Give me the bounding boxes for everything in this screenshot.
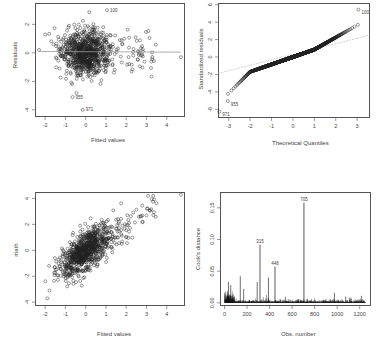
svg-text:1: 1 — [104, 311, 107, 317]
svg-text:-1: -1 — [63, 311, 68, 317]
cooks-distance-panel: 0200400600800100012000.000.050.100.15705… — [191, 178, 382, 356]
svg-text:3: 3 — [145, 122, 148, 128]
svg-text:1000: 1000 — [331, 311, 343, 317]
x-axis-label: Theoretical Quantiles — [272, 140, 329, 146]
svg-text:0: 0 — [223, 311, 226, 317]
svg-text:955: 955 — [76, 95, 84, 100]
svg-text:-4: -4 — [207, 89, 213, 94]
svg-text:-4: -4 — [24, 107, 30, 112]
svg-text:2: 2 — [207, 38, 213, 41]
svg-text:0: 0 — [207, 55, 213, 58]
svg-text:955: 955 — [231, 102, 239, 107]
svg-text:448: 448 — [271, 261, 279, 266]
svg-text:2: 2 — [334, 123, 337, 129]
y-axis-label: Residuals — [12, 35, 18, 75]
svg-text:-2: -2 — [43, 122, 48, 128]
cooks-bars — [225, 203, 366, 303]
svg-text:200: 200 — [242, 311, 251, 317]
svg-text:0.05: 0.05 — [209, 266, 215, 277]
svg-text:-4: -4 — [24, 300, 30, 305]
svg-text:1200: 1200 — [354, 311, 366, 317]
y-axis-label: Cook's distance — [195, 224, 201, 274]
svg-text:0: 0 — [291, 123, 294, 129]
svg-text:2: 2 — [24, 223, 30, 226]
svg-text:0: 0 — [24, 249, 30, 252]
x-axis-label: Obs. number — [281, 331, 316, 337]
svg-text:3: 3 — [356, 123, 359, 129]
svg-text:3: 3 — [145, 311, 148, 317]
svg-text:4: 4 — [24, 197, 30, 200]
svg-text:100: 100 — [361, 10, 369, 15]
svg-text:800: 800 — [310, 311, 319, 317]
svg-text:600: 600 — [288, 311, 297, 317]
svg-text:-2: -2 — [24, 274, 30, 279]
svg-text:100: 100 — [110, 8, 118, 13]
svg-text:6: 6 — [207, 3, 213, 6]
svg-text:971: 971 — [86, 107, 94, 112]
svg-text:400: 400 — [265, 311, 274, 317]
residuals-scatter-plot: -2-10123420-2-4100955971 — [0, 0, 191, 178]
axes: -3-2-101236420-2-4-6 — [207, 3, 359, 129]
svg-text:0.00: 0.00 — [209, 297, 215, 308]
svg-text:4: 4 — [165, 311, 168, 317]
svg-text:-2: -2 — [248, 123, 253, 129]
svg-text:0: 0 — [84, 311, 87, 317]
svg-text:2: 2 — [24, 23, 30, 26]
svg-text:0.15: 0.15 — [209, 202, 215, 213]
svg-text:0: 0 — [84, 122, 87, 128]
qq-scatter-plot: -3-2-101236420-2-4-6100955971 — [191, 0, 382, 178]
cooks-distance-bars: 0200400600800100012000.000.050.100.15705… — [191, 178, 382, 356]
x-axis-label: Fitted values — [97, 331, 131, 337]
svg-text:2: 2 — [125, 122, 128, 128]
svg-text:705: 705 — [300, 197, 308, 202]
svg-text:1: 1 — [313, 123, 316, 129]
normal-qq-panel: -3-2-101236420-2-4-6100955971 Theoretica… — [191, 0, 382, 178]
math-scatter-plot: -2-101234420-2-4 — [0, 178, 191, 356]
svg-text:-1: -1 — [269, 123, 274, 129]
svg-text:1: 1 — [104, 122, 107, 128]
y-axis-label: math — [13, 240, 19, 260]
svg-text:4: 4 — [207, 21, 213, 24]
svg-text:-1: -1 — [63, 122, 68, 128]
svg-text:4: 4 — [165, 122, 168, 128]
svg-text:-2: -2 — [24, 79, 30, 84]
x-axis-label: Fitted values — [91, 137, 125, 143]
svg-text:-2: -2 — [207, 72, 213, 77]
svg-text:0: 0 — [24, 51, 30, 54]
y-axis-label: Standardized residuals — [198, 24, 204, 94]
svg-text:315: 315 — [256, 239, 264, 244]
svg-text:-2: -2 — [43, 311, 48, 317]
residuals-vs-fitted-panel: -2-10123420-2-4100955971 Fitted values R… — [0, 0, 191, 178]
math-vs-fitted-panel: -2-101234420-2-4 Fitted values math — [0, 178, 191, 356]
svg-text:2: 2 — [125, 311, 128, 317]
svg-text:971: 971 — [222, 112, 230, 117]
svg-text:0.10: 0.10 — [209, 234, 215, 245]
svg-text:-6: -6 — [207, 107, 213, 112]
svg-text:-3: -3 — [226, 123, 231, 129]
